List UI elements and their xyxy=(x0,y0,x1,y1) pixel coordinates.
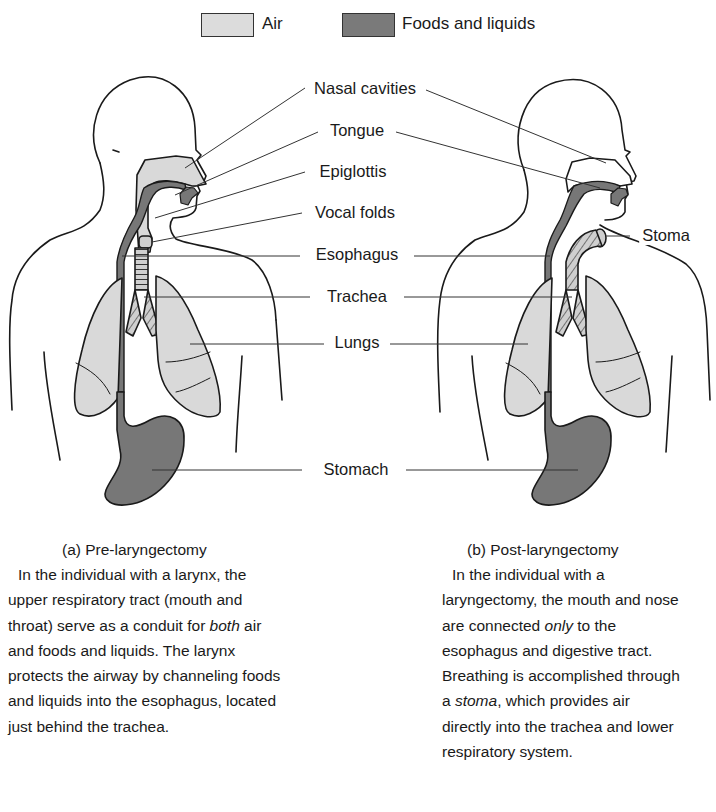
figure-post-laryngectomy xyxy=(438,80,710,505)
lung-left-side-b xyxy=(586,276,650,417)
larynx-left xyxy=(139,236,152,248)
caption-post-laryngectomy: (b) Post-laryngectomy xyxy=(467,541,619,559)
stomach-right xyxy=(532,392,611,505)
label-vocal-folds: Vocal folds xyxy=(312,203,398,222)
tongue-left xyxy=(180,187,198,205)
label-lungs: Lungs xyxy=(332,333,383,352)
caption-pre-laryngectomy: (a) Pre-laryngectomy xyxy=(62,541,207,559)
label-nasal-cavities: Nasal cavities xyxy=(311,79,419,98)
label-stoma: Stoma xyxy=(639,226,693,245)
figure-pre-laryngectomy xyxy=(10,77,282,505)
description-pre-laryngectomy: In the individual with a larynx, the upp… xyxy=(8,562,288,739)
label-stomach: Stomach xyxy=(320,460,391,479)
stomach-left xyxy=(105,392,184,505)
trachea-left xyxy=(135,248,148,290)
description-post-laryngectomy: In the individual with a laryngectomy, t… xyxy=(442,562,680,764)
label-esophagus: Esophagus xyxy=(313,245,402,264)
lung-right-side xyxy=(75,278,122,416)
label-trachea: Trachea xyxy=(324,287,390,306)
label-epiglottis: Epiglottis xyxy=(317,162,390,181)
label-tongue: Tongue xyxy=(327,121,387,140)
